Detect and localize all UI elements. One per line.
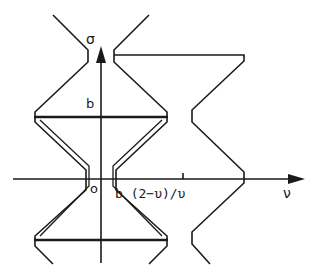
right-inner-boundary <box>113 120 162 236</box>
b-sigma-label: b <box>86 96 94 111</box>
sigma-label: σ <box>86 31 95 47</box>
sigma-arrowhead-icon <box>96 46 106 63</box>
shifted-boundary <box>114 55 244 264</box>
nu-arrowhead-icon <box>288 174 305 184</box>
origin-label: o <box>90 181 98 196</box>
b-nu-label: b (2−υ)/υ <box>115 186 186 201</box>
diagram-canvas: σ b o b (2−υ)/υ ν <box>0 0 316 275</box>
left-inner-boundary <box>40 120 89 236</box>
nu-label: ν <box>283 185 291 201</box>
